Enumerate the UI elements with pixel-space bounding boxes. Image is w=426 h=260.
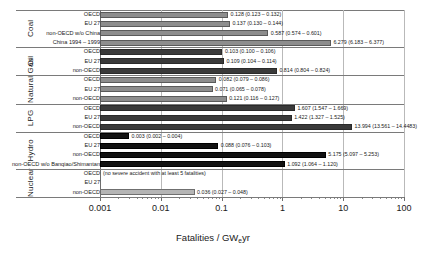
x-tick <box>404 197 405 201</box>
row-label: non-OECD <box>0 66 104 75</box>
bar-row: OECD0.103 (0.100 – 0.106) <box>0 47 426 56</box>
row-label: non-OECD <box>0 122 104 131</box>
bar <box>100 68 277 74</box>
bar <box>100 143 218 149</box>
bar-value-label: 5.175 (5.097 – 5.253) <box>326 150 379 159</box>
bar <box>100 77 216 83</box>
bar-row: EU 271.422 (1.327 – 1.525) <box>0 113 426 122</box>
bar-row: OECD0.082 (0.079 – 0.086) <box>0 75 426 84</box>
row-label: OECD <box>0 169 104 178</box>
bar-value-label: 0.088 (0.076 – 0.103) <box>218 141 271 150</box>
group-separator <box>16 169 404 170</box>
group-label-nuclear: Nuclear <box>26 169 35 197</box>
x-axis-title-tail: yr <box>242 232 250 243</box>
x-tick-label: 1 <box>280 203 285 213</box>
x-tick-label: 10 <box>338 203 348 213</box>
bar-row: OECD1.607 (1.547 – 1.669) <box>0 104 426 113</box>
group-label-hydro: Hydro <box>26 132 35 169</box>
bar <box>100 96 227 102</box>
row-label: EU 27 <box>0 141 104 150</box>
bar <box>100 40 331 46</box>
group-label-lpg: LPG <box>26 104 35 132</box>
bar-value-label: 0.814 (0.804 – 0.824) <box>277 66 330 75</box>
bar-value-label: 0.128 (0.123 – 0.132) <box>228 10 281 19</box>
bar-row: EU 270.109 (0.104 – 0.114) <box>0 57 426 66</box>
bar-row: non-OECD w/o China0.587 (0.574 – 0.601) <box>0 29 426 38</box>
row-label: EU 27 <box>0 113 104 122</box>
row-label: EU 27 <box>0 19 104 28</box>
row-label: OECD <box>0 104 104 113</box>
bar-value-label: 0.137 (0.130 – 0.144) <box>230 19 283 28</box>
group-separator <box>16 104 404 105</box>
row-label: non-OECD <box>0 150 104 159</box>
group-label-natural-gas: Natural Gas <box>26 75 35 103</box>
row-label: OECD <box>0 75 104 84</box>
bar <box>100 105 295 111</box>
row-label: OECD <box>0 132 104 141</box>
bar <box>100 21 230 27</box>
row-label: China 1994 – 1999 <box>0 38 104 47</box>
group-label-coal: Coal <box>26 10 35 47</box>
bar-row: non-OECD0.036 (0.027 – 0.048) <box>0 188 426 197</box>
x-axis-title-main: Fatalities / GW <box>176 232 238 243</box>
bar-value-label: 6.279 (6.183 – 6.377) <box>331 38 384 47</box>
row-label: non-OECD <box>0 94 104 103</box>
bar-row: non-OECD w/o Banqiao/Shimantan1.092 (1.0… <box>0 160 426 169</box>
row-label: non-OECD w/o Banqiao/Shimantan <box>0 160 104 169</box>
bar-value-label: 0.109 (0.104 – 0.114) <box>224 57 277 66</box>
bar-row: EU 270.137 (0.130 – 0.144) <box>0 19 426 28</box>
bar-value-label: 0.121 (0.116 – 0.127) <box>227 94 280 103</box>
bar-value-label: 0.003 (0.002 – 0.004) <box>129 132 182 141</box>
bar-row: EU 270.088 (0.076 – 0.103) <box>0 141 426 150</box>
bar-value-label: 0.071 (0.065 – 0.078) <box>213 85 266 94</box>
x-tick-label: 0.001 <box>89 203 112 213</box>
bar <box>100 58 224 64</box>
bar-row: OECD(no severe accident with at least 5 … <box>0 169 426 178</box>
nuclear-no-accident-note: (no severe accident with at least 5 fata… <box>103 169 206 178</box>
bar <box>100 115 292 121</box>
row-label: EU 27 <box>0 178 104 187</box>
bar-value-label: 0.103 (0.100 – 0.106) <box>222 47 275 56</box>
row-label: non-OECD w/o China <box>0 29 104 38</box>
bar-row: China 1994 – 19996.279 (6.183 – 6.377) <box>0 38 426 47</box>
x-axis-title-subscript: e <box>238 237 242 244</box>
x-tick-label: 0.1 <box>215 203 228 213</box>
row-label: non-OECD <box>0 188 104 197</box>
bar <box>100 124 352 130</box>
bar-value-label: 0.036 (0.027 – 0.048) <box>195 188 248 197</box>
group-separator <box>16 47 404 48</box>
row-label: EU 27 <box>0 85 104 94</box>
bar-value-label: 1.092 (1.064 – 1.120) <box>285 160 338 169</box>
bar <box>100 189 195 195</box>
bar-value-label: 13.994 (13.561 – 14.4483) <box>352 122 417 131</box>
bar <box>100 86 213 92</box>
bar-row: EU 270.071 (0.065 – 0.078) <box>0 85 426 94</box>
bar <box>100 12 228 18</box>
bar <box>100 161 285 167</box>
x-axis-title: Fatalities / GWeyr <box>0 232 426 243</box>
bar-row: non-OECD13.994 (13.561 – 14.4483) <box>0 122 426 131</box>
bar-value-label: 0.587 (0.574 – 0.601) <box>268 29 321 38</box>
bar <box>100 133 129 139</box>
chart-figure: 0.0010.010.1110100 Fatalities / GWeyr OE… <box>0 0 426 260</box>
x-tick-label: 100 <box>396 203 411 213</box>
bar-value-label: 1.607 (1.547 – 1.669) <box>295 104 348 113</box>
x-tick-label: 0.01 <box>152 203 170 213</box>
bar-row: non-OECD5.175 (5.097 – 5.253) <box>0 150 426 159</box>
bar-row: EU 27 <box>0 178 426 187</box>
bar-row: non-OECD0.121 (0.116 – 0.127) <box>0 94 426 103</box>
bar-value-label: 1.422 (1.327 – 1.525) <box>292 113 345 122</box>
bar <box>100 30 268 36</box>
group-separator <box>16 75 404 76</box>
bar <box>100 49 222 55</box>
row-label: EU 27 <box>0 57 104 66</box>
row-label: OECD <box>0 47 104 56</box>
bar-row: OECD0.128 (0.123 – 0.132) <box>0 10 426 19</box>
bar <box>100 152 326 158</box>
bar-row: OECD0.003 (0.002 – 0.004) <box>0 132 426 141</box>
row-label: OECD <box>0 10 104 19</box>
bar-row: non-OECD0.814 (0.804 – 0.824) <box>0 66 426 75</box>
bar-value-label: 0.082 (0.079 – 0.086) <box>216 75 269 84</box>
group-separator <box>16 132 404 133</box>
group-separator <box>16 197 404 198</box>
